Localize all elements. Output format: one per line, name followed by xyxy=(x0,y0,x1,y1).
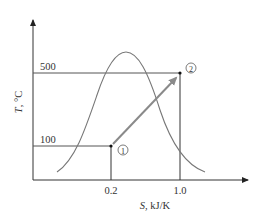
tick-0-2: 0.2 xyxy=(104,185,117,196)
y-axis-label: T, °C xyxy=(13,91,24,113)
svg-text:1: 1 xyxy=(121,147,125,156)
x-axis-label: S, kJ/K xyxy=(140,200,171,211)
tick-500: 500 xyxy=(40,61,56,72)
ts-diagram: 1 2 500 100 0.2 1.0 S, kJ/K T, °C xyxy=(0,0,265,221)
process-arrow xyxy=(113,78,176,144)
tick-1-0: 1.0 xyxy=(173,185,186,196)
tick-100: 100 xyxy=(40,134,56,145)
svg-text:2: 2 xyxy=(189,65,193,74)
state-point-2 xyxy=(178,71,181,74)
state-marker-2: 2 xyxy=(186,63,196,74)
state-point-1 xyxy=(109,144,112,147)
saturation-dome-curve xyxy=(57,52,205,172)
state-marker-1: 1 xyxy=(118,145,128,156)
